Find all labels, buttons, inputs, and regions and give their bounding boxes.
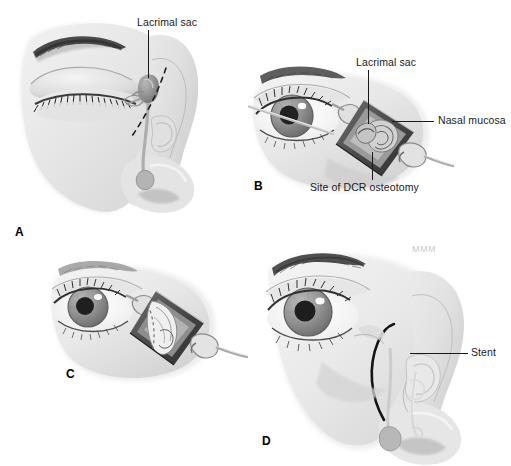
- panel-letter-c: C: [66, 367, 75, 381]
- leader-nasal-mucosa: [392, 121, 434, 122]
- corneal-highlight-b: [298, 103, 306, 109]
- label-stent: Stent: [471, 346, 496, 358]
- panel-d: Stent MMM D: [262, 232, 511, 466]
- retractor-shaft-hl-lower-c: [216, 346, 248, 356]
- panel-letter-a: A: [15, 225, 24, 239]
- leader-site-of-dcr-osteotomy: [372, 152, 373, 180]
- panel-letter-b: B: [254, 179, 263, 193]
- corneal-highlight-c: [94, 294, 102, 300]
- panel-c-illustration: [48, 245, 268, 395]
- pupil-c: [76, 297, 94, 315]
- label-lacrimal-sac-b: Lacrimal sac: [356, 56, 416, 68]
- pupil-d: [295, 301, 316, 322]
- panel-b: Lacrimal sac Nasal mucosa Site of DCR os…: [248, 48, 511, 208]
- panel-a: Lacrimal sac A: [0, 0, 255, 240]
- panel-c: C: [48, 245, 268, 395]
- corneal-highlight-d: [315, 298, 324, 305]
- artist-signature: MMM: [412, 244, 436, 254]
- leader-lacrimal-sac-a: [148, 30, 149, 78]
- label-lacrimal-sac-a: Lacrimal sac: [137, 16, 197, 28]
- panel-letter-d: D: [262, 434, 271, 448]
- duct-opening-d: [379, 427, 401, 451]
- label-site-of-dcr-osteotomy: Site of DCR osteotomy: [310, 181, 419, 193]
- dcr-figure: Lacrimal sac A: [0, 0, 511, 466]
- leader-lacrimal-sac-b: [368, 70, 369, 124]
- duct-opening-a: [136, 170, 154, 189]
- label-nasal-mucosa: Nasal mucosa: [438, 114, 506, 126]
- leader-stent: [410, 353, 468, 354]
- retractor-shaft-hl-lower-b: [424, 155, 454, 165]
- panel-a-illustration: [0, 0, 255, 240]
